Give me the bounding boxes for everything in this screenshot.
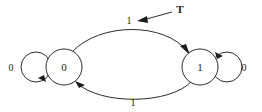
annotation-leader-arrowhead <box>137 16 148 23</box>
transition-bottom-arrowhead <box>75 81 85 88</box>
self-loop-right-label: 0 <box>242 62 247 73</box>
transition-bottom-label: 1 <box>131 97 136 108</box>
state-label-1: 1 <box>197 61 203 73</box>
state-diagram-canvas: 0 1 0 0 1 1 T <box>0 0 262 112</box>
transition-top-label: 1 <box>127 15 132 26</box>
self-loop-left-label: 0 <box>9 62 14 73</box>
state-label-0: 0 <box>61 61 67 73</box>
annotation-label-t: T <box>176 3 184 15</box>
state-diagram-svg: 0 1 0 0 1 1 T <box>0 0 262 112</box>
transition-top-path <box>72 30 188 53</box>
